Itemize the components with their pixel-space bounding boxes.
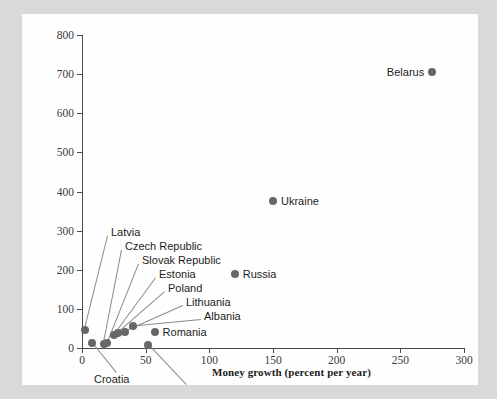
x-tick-100 bbox=[209, 348, 210, 353]
y-tick-label-600: 600 bbox=[57, 107, 74, 119]
point-label-belarus: Belarus bbox=[387, 66, 424, 78]
callout-label-albania: Albania bbox=[204, 310, 241, 322]
callout-label-poland: Poland bbox=[168, 282, 202, 294]
y-tick-label-500: 500 bbox=[57, 146, 74, 158]
x-tick-label-200: 200 bbox=[328, 354, 345, 366]
x-tick-label-0: 0 bbox=[79, 354, 85, 366]
callout-label-slovak-republic: Slovak Republic bbox=[142, 254, 221, 266]
y-tick-label-100: 100 bbox=[57, 303, 74, 315]
y-tick-100 bbox=[77, 309, 82, 310]
y-tick-800 bbox=[77, 35, 82, 36]
y-tick-label-400: 400 bbox=[57, 186, 74, 198]
y-axis-title-line1: Inflation rate bbox=[22, 14, 33, 34]
x-tick-label-300: 300 bbox=[455, 354, 472, 366]
y-tick-label-800: 800 bbox=[57, 29, 74, 41]
x-tick-0 bbox=[82, 348, 83, 353]
data-point-latvia[interactable] bbox=[81, 326, 89, 334]
point-label-ukraine: Ukraine bbox=[281, 195, 319, 207]
callout-label-czech-republic: Czech Republic bbox=[125, 240, 202, 252]
y-tick-label-300: 300 bbox=[57, 225, 74, 237]
y-tick-200 bbox=[77, 270, 82, 271]
callout-label-croatia: Croatia bbox=[94, 373, 129, 385]
data-point-slovenia[interactable] bbox=[144, 341, 152, 349]
data-point-belarus[interactable] bbox=[428, 68, 436, 76]
leader-line-slovenia bbox=[148, 344, 187, 385]
data-point-estonia[interactable] bbox=[110, 331, 118, 339]
callout-label-estonia: Estonia bbox=[159, 268, 196, 280]
y-axis-line bbox=[82, 35, 83, 348]
data-point-croatia[interactable] bbox=[88, 339, 96, 347]
figure-panel: Inflation rate (percent per year) Money … bbox=[22, 14, 478, 385]
x-tick-250 bbox=[400, 348, 401, 353]
data-point-lithuania[interactable] bbox=[121, 328, 129, 336]
y-tick-600 bbox=[77, 113, 82, 114]
callout-label-lithuania: Lithuania bbox=[186, 296, 231, 308]
plot-area: 0100200300400500600700800 05010015020025… bbox=[82, 35, 464, 348]
data-point-albania[interactable] bbox=[129, 322, 137, 330]
y-tick-label-700: 700 bbox=[57, 68, 74, 80]
point-label-romania: Romania bbox=[163, 326, 207, 338]
leader-line-latvia bbox=[84, 236, 108, 331]
y-tick-label-200: 200 bbox=[57, 264, 74, 276]
y-tick-label-0: 0 bbox=[68, 342, 74, 354]
y-tick-700 bbox=[77, 74, 82, 75]
y-axis-title-line2: (percent per year) bbox=[33, 14, 46, 34]
x-tick-label-150: 150 bbox=[264, 354, 281, 366]
point-label-russia: Russia bbox=[243, 268, 277, 280]
y-axis-title: Inflation rate (percent per year) bbox=[22, 14, 46, 34]
callout-label-latvia: Latvia bbox=[111, 226, 140, 238]
y-tick-500 bbox=[77, 152, 82, 153]
x-axis-title: Money growth (percent per year) bbox=[212, 366, 371, 378]
data-point-russia[interactable] bbox=[231, 270, 239, 278]
x-tick-200 bbox=[337, 348, 338, 353]
x-tick-label-50: 50 bbox=[140, 354, 152, 366]
x-tick-label-250: 250 bbox=[392, 354, 409, 366]
y-tick-400 bbox=[77, 192, 82, 193]
x-tick-300 bbox=[464, 348, 465, 353]
data-point-romania[interactable] bbox=[151, 328, 159, 336]
data-point-ukraine[interactable] bbox=[269, 197, 277, 205]
data-point-czech-republic[interactable] bbox=[100, 340, 108, 348]
x-tick-label-100: 100 bbox=[201, 354, 218, 366]
x-tick-150 bbox=[273, 348, 274, 353]
y-tick-300 bbox=[77, 231, 82, 232]
